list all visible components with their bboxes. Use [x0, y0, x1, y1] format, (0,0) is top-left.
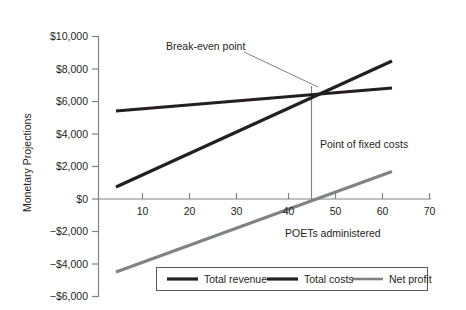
- x-tick-label-20: 20: [170, 206, 210, 217]
- x-axis-title: POETs administered: [285, 228, 381, 239]
- y-tick-label-neg6000: −$6,000: [6, 291, 88, 302]
- y-tick-label-0: $0: [10, 194, 88, 205]
- x-tick-marks: [143, 193, 430, 199]
- series-line-net-profit: [116, 172, 392, 273]
- legend-label-net-profit: Net profit: [389, 274, 432, 285]
- x-tick-label-60: 60: [363, 206, 403, 217]
- x-tick-label-50: 50: [316, 206, 356, 217]
- x-tick-label-40: 40: [269, 206, 309, 217]
- series-line-total-revenue: [116, 61, 392, 187]
- y-tick-label-8000: $8,000: [10, 64, 88, 75]
- x-tick-label-10: 10: [123, 206, 163, 217]
- y-tick-label-4000: $4,000: [10, 129, 88, 140]
- x-tick-label-30: 30: [217, 206, 257, 217]
- y-tick-label-10000: $10,000: [10, 31, 88, 42]
- break-even-leader-line: [244, 52, 318, 87]
- chart-figure: Monetary Projections $10,000 $8,000 $6,0…: [0, 0, 466, 310]
- series-line-total-costs: [116, 88, 392, 111]
- y-tick-marks: [92, 37, 99, 297]
- y-tick-label-6000: $6,000: [10, 96, 88, 107]
- annotation-point-of-fixed-costs: Point of fixed costs: [320, 139, 408, 150]
- annotation-break-even-point: Break-even point: [166, 41, 245, 52]
- x-tick-label-70: 70: [410, 206, 450, 217]
- y-tick-label-neg2000: −$2,000: [6, 226, 88, 237]
- legend-label-total-costs: Total costs: [304, 274, 354, 285]
- y-tick-label-neg4000: −$4,000: [6, 259, 88, 270]
- legend-label-total-revenue: Total revenue: [204, 274, 267, 285]
- y-tick-label-2000: $2,000: [10, 161, 88, 172]
